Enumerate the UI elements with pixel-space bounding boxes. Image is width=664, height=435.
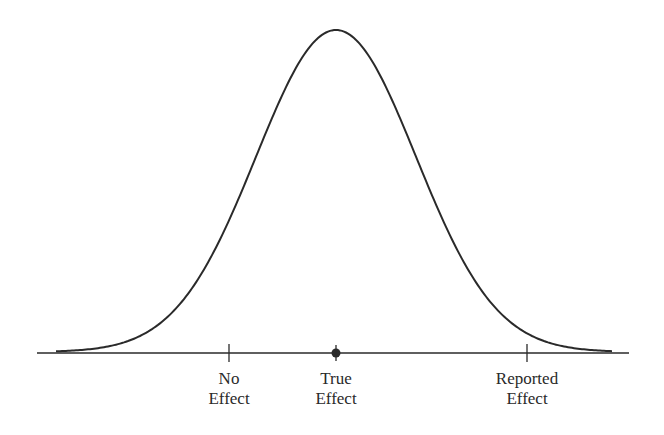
no-effect-label-line1: No <box>169 369 289 389</box>
true-effect-label-line2: Effect <box>276 389 396 409</box>
bell-curve <box>56 30 612 351</box>
distribution-diagram: No Effect True Effect Reported Effect <box>0 0 664 435</box>
reported-effect-label: Reported Effect <box>467 369 587 409</box>
true-effect-label-line1: True <box>276 369 396 389</box>
reported-effect-label-line1: Reported <box>467 369 587 389</box>
no-effect-label-line2: Effect <box>169 389 289 409</box>
true-effect-label: True Effect <box>276 369 396 409</box>
reported-effect-label-line2: Effect <box>467 389 587 409</box>
no-effect-label: No Effect <box>169 369 289 409</box>
